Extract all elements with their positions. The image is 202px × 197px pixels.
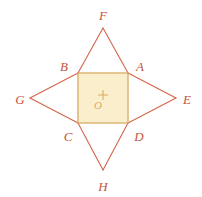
edge-f-a — [103, 28, 128, 73]
geometry-figure: A B C D E F G H O — [0, 0, 202, 197]
edge-h-c — [78, 123, 103, 170]
vertex-label-e: E — [183, 93, 191, 106]
edge-a-e — [128, 73, 176, 98]
vertex-label-d: D — [134, 130, 143, 143]
center-label-o: O — [94, 100, 102, 111]
vertex-label-a: A — [136, 60, 144, 73]
edge-g-b — [30, 73, 78, 98]
vertex-label-g: G — [15, 93, 24, 106]
edge-e-d — [128, 98, 176, 123]
vertex-label-f: F — [99, 9, 107, 22]
vertex-label-h: H — [98, 180, 107, 193]
vertex-label-b: B — [60, 60, 68, 73]
vertex-label-c: C — [64, 130, 73, 143]
edge-c-g — [30, 98, 78, 123]
edge-d-h — [103, 123, 128, 170]
edge-b-f — [78, 28, 103, 73]
